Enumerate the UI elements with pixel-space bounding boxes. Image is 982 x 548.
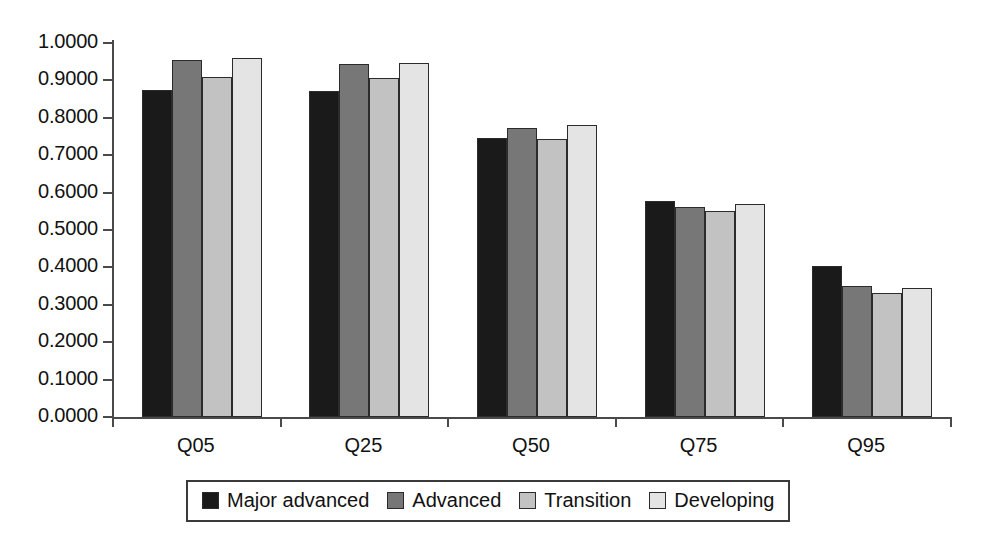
chart-legend: Major advancedAdvancedTransitionDevelopi…: [186, 480, 790, 522]
legend-item: Developing: [649, 489, 774, 512]
y-axis-tick-mark: [103, 379, 112, 381]
bar: [567, 125, 597, 417]
bar: [675, 207, 705, 417]
y-axis-tick-label: 0.6000: [38, 180, 98, 203]
x-axis-line: [112, 417, 950, 419]
legend-label: Major advanced: [227, 489, 369, 512]
legend-item: Major advanced: [202, 489, 369, 512]
legend-item: Transition: [519, 489, 631, 512]
bar: [369, 78, 399, 417]
legend-label: Transition: [544, 489, 631, 512]
y-axis-tick-mark: [103, 304, 112, 306]
bar: [477, 138, 507, 417]
y-axis-tick-label: 0.5000: [38, 217, 98, 240]
bar-group: [142, 43, 262, 417]
x-axis-tick-mark: [782, 417, 784, 427]
bar: [507, 128, 537, 417]
y-axis-tick-label: 0.1000: [38, 367, 98, 390]
bar: [842, 286, 872, 417]
bar: [705, 211, 735, 417]
y-axis-tick-mark: [103, 266, 112, 268]
bar: [142, 90, 172, 417]
legend-item: Advanced: [387, 489, 501, 512]
y-axis-tick-mark: [103, 154, 112, 156]
legend-label: Developing: [674, 489, 774, 512]
bar-chart: 0.00000.10000.20000.30000.40000.50000.60…: [0, 0, 982, 548]
bar: [399, 63, 429, 417]
x-axis-label: Q05: [112, 434, 280, 457]
x-axis-tick-mark: [280, 417, 282, 427]
legend-swatch-icon: [519, 492, 536, 509]
bar: [872, 293, 902, 417]
plot-area: [112, 43, 950, 417]
y-axis-tick-mark: [103, 42, 112, 44]
y-axis-tick-mark: [103, 416, 112, 418]
bar: [537, 139, 567, 417]
bar: [812, 266, 842, 417]
bar: [645, 201, 675, 417]
y-axis-tick-label: 0.4000: [38, 254, 98, 277]
legend-swatch-icon: [387, 492, 404, 509]
x-axis-tick-mark: [112, 417, 114, 427]
bar-group: [309, 43, 429, 417]
y-axis-tick-label: 0.7000: [38, 142, 98, 165]
bar: [232, 58, 262, 417]
x-axis-tick-mark: [447, 417, 449, 427]
x-axis-tick-mark: [950, 417, 952, 427]
bar: [339, 64, 369, 417]
legend-swatch-icon: [649, 492, 666, 509]
legend-swatch-icon: [202, 492, 219, 509]
y-axis-tick-mark: [103, 117, 112, 119]
bar: [735, 204, 765, 417]
y-axis-tick-label: 0.2000: [38, 329, 98, 352]
y-axis-tick-label: 1.0000: [38, 30, 98, 53]
x-axis-label: Q95: [782, 434, 950, 457]
x-axis-label: Q75: [615, 434, 783, 457]
y-axis-tick-mark: [103, 341, 112, 343]
bar-group: [812, 43, 932, 417]
bar: [202, 77, 232, 417]
y-axis-tick-label: 0.0000: [38, 404, 98, 427]
bar: [309, 91, 339, 417]
y-axis-tick-label: 0.8000: [38, 105, 98, 128]
x-axis-label: Q50: [447, 434, 615, 457]
y-axis-tick-mark: [103, 192, 112, 194]
x-axis-label: Q25: [280, 434, 448, 457]
bar: [172, 60, 202, 417]
bar: [902, 288, 932, 417]
y-axis-tick-label: 0.3000: [38, 292, 98, 315]
bar-group: [645, 43, 765, 417]
legend-label: Advanced: [412, 489, 501, 512]
x-axis-tick-mark: [615, 417, 617, 427]
bar-group: [477, 43, 597, 417]
y-axis-tick-mark: [103, 229, 112, 231]
y-axis-tick-mark: [103, 79, 112, 81]
y-axis-tick-label: 0.9000: [38, 67, 98, 90]
